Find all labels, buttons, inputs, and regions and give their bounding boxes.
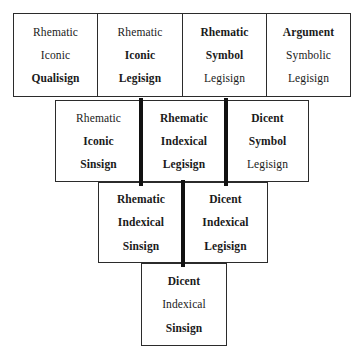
sign-term: Dicent (142, 275, 226, 287)
thick-divider (181, 180, 185, 267)
sign-term: Iconic (56, 135, 141, 147)
sign-term: Legisign (184, 240, 267, 252)
sign-term: Symbol (183, 49, 266, 61)
sign-term: Rhematic (98, 26, 182, 38)
thick-divider (224, 98, 228, 186)
sign-term: Sinsign (99, 240, 183, 252)
thick-divider (139, 98, 143, 186)
sign-term: Legisign (183, 72, 266, 84)
sign-term: Dicent (184, 193, 267, 205)
sign-term: Legisign (227, 158, 308, 170)
sign-term: Indexical (142, 298, 226, 310)
sign-class-cell: Dicent Indexical Legisign (183, 182, 268, 263)
sign-term: Rhematic (99, 193, 183, 205)
sign-term: Rhematic (142, 112, 226, 124)
sign-term: Sinsign (56, 158, 141, 170)
sign-classification-diagram: Rhematic Iconic Qualisign Rhematic Iconi… (0, 0, 362, 360)
sign-class-cell: Rhematic Indexical Sinsign (98, 182, 184, 263)
sign-term: Legisign (267, 72, 350, 84)
sign-term: Indexical (142, 135, 226, 147)
sign-term: Indexical (184, 216, 267, 228)
sign-term: Argument (267, 26, 350, 38)
sign-class-cell: Rhematic Iconic Sinsign (55, 100, 142, 182)
sign-term: Legisign (98, 72, 182, 84)
sign-term: Rhematic (56, 112, 141, 124)
sign-term: Symbolic (267, 49, 350, 61)
sign-term: Iconic (98, 49, 182, 61)
sign-term: Indexical (99, 216, 183, 228)
thick-divider (181, 261, 185, 267)
sign-term: Rhematic (183, 26, 266, 38)
sign-term: Sinsign (142, 322, 226, 334)
sign-term: Dicent (227, 112, 308, 124)
sign-class-cell: Dicent Symbol Legisign (226, 100, 309, 182)
sign-class-cell: Rhematic Symbol Legisign (182, 13, 267, 97)
sign-term: Iconic (14, 49, 97, 61)
sign-class-cell: Rhematic Iconic Qualisign (13, 13, 98, 97)
sign-class-cell: Dicent Indexical Sinsign (141, 263, 227, 346)
sign-term: Qualisign (14, 72, 97, 84)
sign-term: Rhematic (14, 26, 97, 38)
sign-term: Legisign (142, 158, 226, 170)
sign-class-cell: Rhematic Indexical Legisign (141, 100, 227, 182)
sign-term: Symbol (227, 135, 308, 147)
sign-class-cell: Argument Symbolic Legisign (266, 13, 351, 97)
sign-class-cell: Rhematic Iconic Legisign (97, 13, 183, 97)
